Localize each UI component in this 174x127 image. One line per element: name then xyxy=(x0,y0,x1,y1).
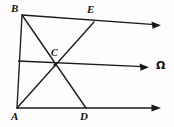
arrow-head-middle xyxy=(140,64,150,71)
vertex-label-d: D xyxy=(80,111,88,122)
arrow-head-top xyxy=(152,22,162,29)
vertex-label-c: C xyxy=(51,48,58,58)
arrow-head-bottom xyxy=(152,105,162,112)
figure-canvas xyxy=(0,0,174,127)
ray-middle-omega xyxy=(18,61,143,67)
intersection-point-C xyxy=(53,63,56,66)
omega-label: Ω xyxy=(156,60,165,71)
vertex-label-a: A xyxy=(11,111,18,122)
ray-group xyxy=(17,15,161,111)
ray-top-from-B xyxy=(22,15,155,25)
geometry-figure: B E C A D Ω xyxy=(0,0,174,127)
vertex-label-e: E xyxy=(87,4,94,15)
vertex-label-b: B xyxy=(11,3,18,14)
